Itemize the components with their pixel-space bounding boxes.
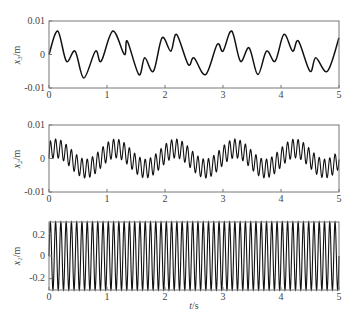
x-axis-title: t/s <box>189 300 199 311</box>
xtick-label: 4 <box>279 193 284 204</box>
xtick-label: 0 <box>47 193 52 204</box>
xtick-label: 5 <box>337 89 342 100</box>
xtick-label: 2 <box>163 193 168 204</box>
x2-trace <box>49 139 339 178</box>
xtick-label: 3 <box>221 193 226 204</box>
ytick-label: 0.2 <box>33 229 46 240</box>
xtick-label: 3 <box>221 89 226 100</box>
chart-figure: 012345 0.01 0 -0.01 x3/m 012345 0.01 0 -… <box>0 0 354 328</box>
ytick-label: 0.01 <box>28 119 46 130</box>
x3-trace <box>49 31 339 78</box>
x1-trace <box>49 222 339 290</box>
xtick-label: 1 <box>105 291 110 302</box>
ytick-label: -0.2 <box>29 272 45 283</box>
ytick-label: 0 <box>40 250 45 261</box>
xtick-label: 5 <box>337 193 342 204</box>
ytick-label: -0.01 <box>24 82 45 93</box>
ytick-label: 0.01 <box>28 15 46 26</box>
y-axis-title-x1: x1/m <box>11 247 24 267</box>
xtick-label: 5 <box>337 291 342 302</box>
xtick-label: 0 <box>47 291 52 302</box>
xtick-label: 2 <box>163 89 168 100</box>
ytick-label: -0.01 <box>24 186 45 197</box>
y-axis-title-x3: x3/m <box>11 46 24 66</box>
xtick-label: 1 <box>105 193 110 204</box>
panel-x3-frame <box>49 21 339 88</box>
panel-x3: 012345 0.01 0 -0.01 x3/m <box>11 15 342 100</box>
xtick-label: 1 <box>105 89 110 100</box>
ytick-label: 0 <box>40 49 45 60</box>
xtick-label: 0 <box>47 89 52 100</box>
y-axis-title-x2: x2/m <box>11 150 24 170</box>
panel-x1: 012345 0.2 0 -0.2 x1/m t/s <box>11 222 342 311</box>
ytick-label: 0 <box>40 153 45 164</box>
xtick-label: 2 <box>163 291 168 302</box>
xtick-label: 4 <box>279 89 284 100</box>
xtick-label: 3 <box>221 291 226 302</box>
xtick-label: 4 <box>279 291 284 302</box>
panel-x2: 012345 0.01 0 -0.01 x2/m <box>11 119 342 204</box>
